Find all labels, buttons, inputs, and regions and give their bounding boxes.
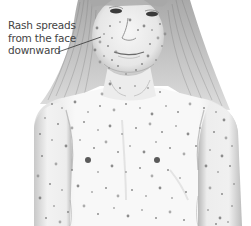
- right-eye: [146, 12, 158, 17]
- annotation-line-3: downward: [8, 44, 76, 57]
- left-arm: [34, 102, 72, 226]
- left-eye: [110, 9, 122, 14]
- annotation-line-2: from the face: [8, 32, 76, 45]
- right-arm: [198, 102, 242, 226]
- annotation-label: Rash spreads from the face downward: [8, 19, 76, 57]
- left-nipple: [85, 157, 91, 163]
- right-nipple: [154, 157, 160, 163]
- annotation-line-1: Rash spreads: [8, 19, 76, 32]
